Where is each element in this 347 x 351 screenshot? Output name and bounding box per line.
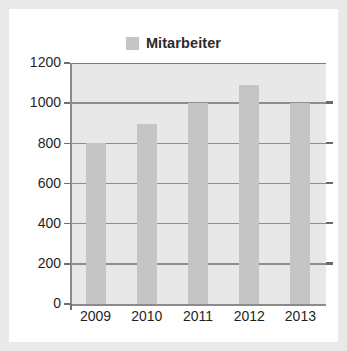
x-axis-tick-label-2011: 2011 xyxy=(172,308,223,324)
x-axis-line xyxy=(70,304,326,306)
x-tick-mark xyxy=(70,304,72,310)
bar-2012[interactable] xyxy=(239,85,259,304)
bars-group xyxy=(70,63,326,304)
y-axis-tick-label: 0 xyxy=(53,295,61,311)
bar-2009[interactable] xyxy=(86,143,106,304)
legend-series-label: Mitarbeiter xyxy=(146,36,221,51)
bar-2010[interactable] xyxy=(137,124,157,304)
y-tick-mark-right xyxy=(326,101,333,104)
y-axis-tick-label: 400 xyxy=(38,215,61,231)
y-tick-mark-right xyxy=(326,262,333,265)
y-axis-tick-label: 1200 xyxy=(30,54,61,70)
plot-wrapper: 020040060080010001200 200920102011201220… xyxy=(70,63,326,313)
x-axis-tick-label-2013: 2013 xyxy=(275,308,326,324)
chart-legend: Mitarbeiter xyxy=(9,33,338,53)
chart-card: Mitarbeiter 020040060080010001200 200920… xyxy=(9,9,338,342)
bar-slot xyxy=(224,63,275,304)
bar-slot xyxy=(121,63,172,304)
plot-area xyxy=(70,63,326,304)
bar-slot xyxy=(172,63,223,304)
y-axis-tick-label: 600 xyxy=(38,175,61,191)
x-axis-labels: 20092010201120122013 xyxy=(70,308,326,324)
x-axis-tick-label-2012: 2012 xyxy=(224,308,275,324)
x-axis-tick-label-2009: 2009 xyxy=(70,308,121,324)
bar-2013[interactable] xyxy=(290,103,310,304)
legend-color-swatch-icon xyxy=(126,37,139,50)
y-axis-tick-label: 1000 xyxy=(30,94,61,110)
y-tick-mark-right xyxy=(326,182,333,185)
x-axis-tick-label-2010: 2010 xyxy=(121,308,172,324)
y-tick-mark-right xyxy=(326,222,333,225)
bar-slot xyxy=(275,63,326,304)
bar-slot xyxy=(70,63,121,304)
y-tick-mark-right xyxy=(326,142,333,145)
bar-2011[interactable] xyxy=(188,103,208,304)
y-axis-line xyxy=(70,63,72,304)
y-axis-tick-label: 200 xyxy=(38,255,61,271)
y-axis-tick-label: 800 xyxy=(38,135,61,151)
